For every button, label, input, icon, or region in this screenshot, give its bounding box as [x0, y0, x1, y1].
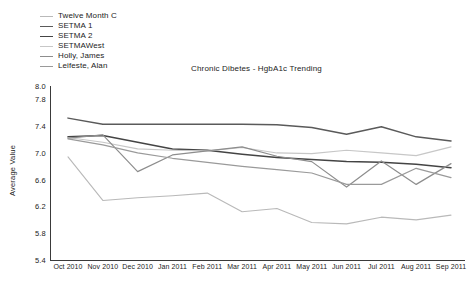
legend-label-holly-james: Holly, James: [58, 51, 104, 61]
y-axis-tick: 5.4: [35, 256, 46, 265]
x-axis-tick: Feb 2011: [192, 263, 222, 270]
y-axis-tick-labels: 8.07.87.47.06.66.25.85.4: [22, 80, 46, 260]
legend-label-setma-1: SETMA 1: [58, 21, 93, 31]
x-axis-tick: May 2011: [296, 263, 327, 270]
series-line: [68, 139, 451, 185]
y-axis-tick: 7.0: [35, 148, 46, 157]
legend-swatch-setma-2: [40, 36, 53, 37]
y-axis-label: Average Value: [6, 80, 20, 260]
x-axis-tick: Dec 2010: [122, 263, 153, 270]
x-axis-tick: Jun 2011: [332, 263, 361, 270]
chart-title: Chronic Dibetes - HgbA1c Trending: [0, 64, 473, 73]
y-axis-tick: 8.0: [35, 82, 46, 91]
legend-item-setma-2: SETMA 2: [40, 31, 117, 41]
y-axis-label-text: Average Value: [9, 144, 18, 195]
legend-item-setma-1: SETMA 1: [40, 21, 117, 31]
chart-legend: Twelve Month C SETMA 1 SETMA 2 SETMAWest…: [40, 11, 117, 71]
chart-series-container: [50, 80, 465, 260]
y-axis-tick: 7.4: [35, 122, 46, 131]
x-axis-tick: Mar 2011: [227, 263, 257, 270]
y-axis-tick: 7.8: [35, 95, 46, 104]
legend-label-twelve-month-c: Twelve Month C: [58, 11, 117, 21]
x-axis-line: [50, 260, 465, 261]
x-axis-tick: Jan 2011: [158, 263, 187, 270]
y-axis-tick: 6.2: [35, 202, 46, 211]
legend-swatch-setmawest: [40, 46, 53, 47]
legend-swatch-setma-1: [40, 26, 53, 27]
x-axis-tick: Oct 2010: [53, 263, 82, 270]
y-axis-tick: 6.6: [35, 175, 46, 184]
legend-item-setmawest: SETMAWest: [40, 41, 117, 51]
x-axis-tick-labels: Oct 2010Nov 2010Dec 2010Jan 2011Feb 2011…: [50, 263, 465, 277]
x-axis-tick: Sep 2011: [436, 263, 466, 270]
legend-label-setma-2: SETMA 2: [58, 31, 93, 41]
x-axis-tick: Nov 2010: [87, 263, 118, 270]
y-axis-tick: 5.8: [35, 229, 46, 238]
legend-item-holly-james: Holly, James: [40, 51, 117, 61]
x-axis-tick: Apr 2011: [263, 263, 292, 270]
legend-swatch-twelve-month-c: [40, 16, 53, 17]
series-line: [68, 118, 451, 141]
x-axis-tick: Jul 2011: [368, 263, 395, 270]
series-line: [68, 157, 451, 224]
plot-area: Average Value 8.07.87.47.06.66.25.85.4 O…: [0, 80, 473, 289]
legend-item-twelve-month-c: Twelve Month C: [40, 11, 117, 21]
legend-swatch-holly-james: [40, 56, 53, 57]
legend-label-setmawest: SETMAWest: [58, 41, 104, 51]
x-axis-tick: Aug 2011: [401, 263, 431, 270]
